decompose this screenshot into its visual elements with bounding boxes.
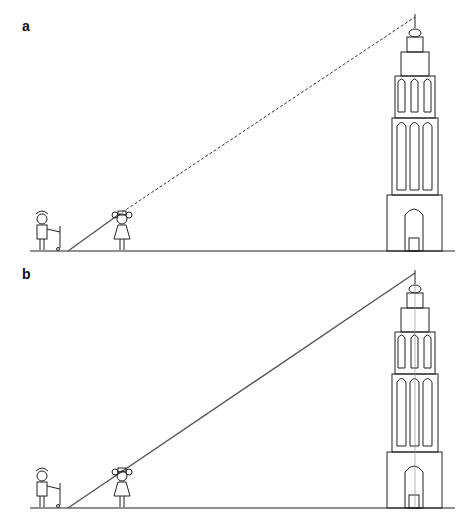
panel-b-drawing: [0, 260, 462, 521]
girl-figure: [112, 468, 132, 507]
sight-line: [68, 273, 415, 508]
tower: [387, 14, 442, 251]
panel-a: a: [0, 0, 462, 260]
tower: [387, 270, 442, 508]
sight-line: [118, 17, 415, 215]
shadow-line: [68, 215, 118, 251]
boy-figure: [36, 211, 60, 251]
boy-figure: [36, 468, 60, 508]
panel-b: b: [0, 260, 462, 521]
panel-a-drawing: [0, 0, 462, 260]
